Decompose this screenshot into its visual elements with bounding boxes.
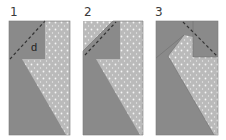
step-3-panel	[156, 21, 218, 135]
step-1-panel	[9, 21, 70, 135]
dark-square	[9, 21, 45, 59]
step-2-panel	[83, 21, 143, 135]
d-label: d	[31, 41, 37, 53]
fold-diagram: d	[0, 0, 226, 140]
